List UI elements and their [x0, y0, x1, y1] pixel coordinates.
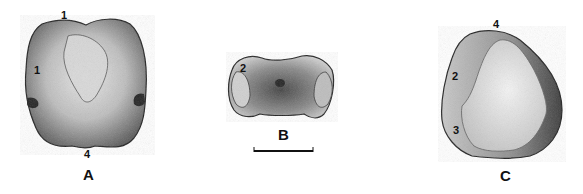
view-b: 2 B: [226, 52, 338, 152]
landmark-a-1-top: 1: [61, 9, 67, 21]
tooth-figure: 1 1 4 A 2 B 4 2 3 C: [0, 0, 583, 194]
view-a: 1 1 4 A: [20, 9, 155, 183]
landmark-c-3: 3: [453, 124, 459, 136]
view-c: 4 2 3 C: [438, 18, 566, 184]
landmark-a-1-side: 1: [34, 64, 40, 76]
landmark-a-4: 4: [84, 148, 91, 160]
view-label-b: B: [278, 126, 289, 143]
view-label-c: C: [500, 167, 511, 184]
landmark-c-2: 2: [452, 70, 458, 82]
landmark-c-4: 4: [493, 18, 500, 30]
landmark-b-2: 2: [240, 62, 246, 74]
view-label-a: A: [83, 166, 94, 183]
